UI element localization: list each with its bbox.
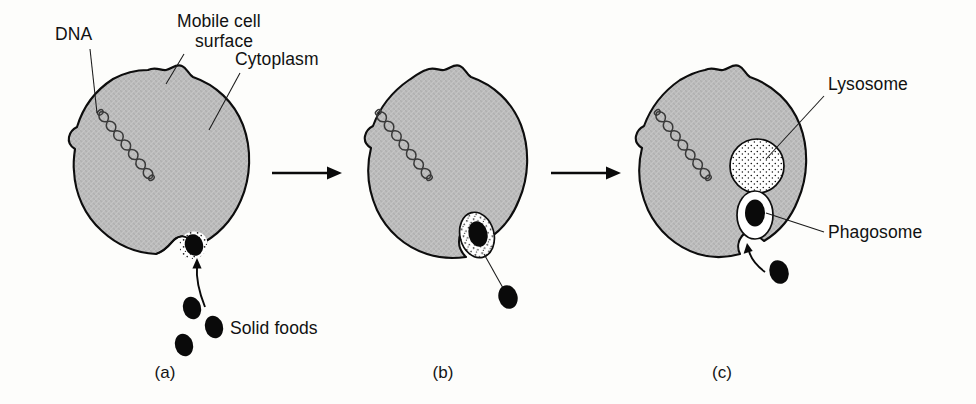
food-uptake-arrow-c: [744, 243, 765, 272]
label-lysosome: Lysosome: [828, 74, 908, 94]
label-solid-foods: Solid foods: [230, 318, 318, 338]
caption-panel-c: (c): [712, 363, 732, 382]
panel-c: Lysosome Phagosome (c): [636, 65, 923, 382]
lysosome-c: [730, 139, 784, 193]
label-cytoplasm: Cytoplasm: [235, 49, 319, 69]
figure-canvas: DNA Mobile cell surface Cytoplasm Solid …: [0, 0, 976, 404]
solid-food-particle-c: [766, 258, 791, 287]
label-phagosome: Phagosome: [828, 222, 922, 242]
label-dna: DNA: [55, 24, 92, 44]
label-mobile-cell-surface-line2: surface: [195, 31, 253, 51]
solid-food-particle-b: [496, 283, 521, 311]
solid-food-particles-a: [172, 294, 226, 358]
caption-panel-a: (a): [155, 363, 176, 382]
caption-panel-b: (b): [433, 363, 454, 382]
flow-arrow-b-to-c: [551, 167, 621, 180]
flow-arrow-a-to-b: [272, 167, 342, 180]
cell-body-b: [365, 65, 527, 258]
cell-body-a: [69, 65, 249, 254]
leader-engulfed-food-b: [484, 254, 503, 288]
label-mobile-cell-surface-line1: Mobile cell: [177, 11, 261, 31]
panel-b: (b): [365, 65, 527, 382]
phagocytosis-figure: DNA Mobile cell surface Cytoplasm Solid …: [0, 0, 976, 404]
panel-a: DNA Mobile cell surface Cytoplasm Solid …: [55, 11, 319, 382]
phagosome-c: [737, 191, 773, 239]
